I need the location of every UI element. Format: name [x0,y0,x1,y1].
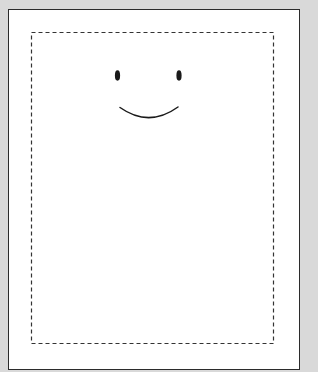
dashed-border [31,32,274,344]
drawing-page[interactable] [8,9,300,370]
dashed-safe-area-frame [31,32,274,344]
